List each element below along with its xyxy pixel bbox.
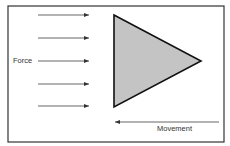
force-movement-diagram: Force Movement	[0, 0, 230, 146]
movement-label: Movement	[157, 124, 192, 133]
force-label: Force	[13, 56, 32, 65]
diagram-canvas	[0, 0, 230, 146]
